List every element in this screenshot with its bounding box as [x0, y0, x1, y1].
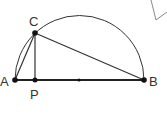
- segment-cb: [35, 33, 144, 80]
- label-b: B: [149, 74, 158, 89]
- point-p: [33, 78, 38, 83]
- point-a: [12, 77, 18, 83]
- segment-ac: [15, 33, 35, 80]
- point-b: [141, 77, 147, 83]
- label-p: P: [30, 87, 39, 102]
- label-a: A: [0, 74, 9, 89]
- label-c: C: [29, 14, 38, 29]
- corner-shape: [151, 0, 167, 20]
- point-c: [32, 30, 38, 36]
- point-center: [77, 78, 80, 81]
- geometry-diagram: A P C B: [0, 0, 167, 116]
